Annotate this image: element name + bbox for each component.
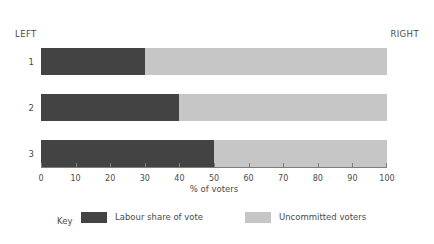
x-axis-tick-label: 50	[209, 174, 219, 184]
x-axis-tick-label: 90	[347, 174, 357, 184]
stacked-bar-chart: LEFT RIGHT 123 0102030405060708090100 % …	[0, 0, 434, 244]
x-axis-tick-label: 70	[278, 174, 288, 184]
x-axis-tick-label: 10	[71, 174, 81, 184]
x-axis-tick	[386, 163, 387, 168]
bar-segment-primary	[41, 140, 214, 167]
x-axis-tick	[145, 163, 146, 168]
legend-title: Key	[57, 216, 72, 227]
legend-label: Uncommitted voters	[279, 212, 366, 223]
bar-row: 2	[41, 94, 387, 121]
bar-row-label: 3	[29, 149, 34, 159]
pole-label-left: LEFT	[15, 29, 37, 40]
chart-legend: Key Labour share of voteUncommitted vote…	[0, 212, 434, 232]
bar-row-label: 2	[29, 103, 34, 113]
x-axis-tick	[179, 163, 180, 168]
x-axis-tick-label: 20	[105, 174, 115, 184]
pole-label-right: RIGHT	[390, 29, 419, 40]
x-axis-tick-label: 100	[379, 174, 394, 184]
x-axis-tick-label: 40	[174, 174, 184, 184]
x-axis-tick-label: 0	[38, 174, 43, 184]
x-axis-tick	[214, 163, 215, 168]
legend-swatch	[81, 212, 107, 223]
bar-segment-secondary	[145, 48, 387, 75]
bar-segment-secondary	[214, 140, 387, 167]
bar-track	[41, 48, 387, 75]
bar-row: 1	[41, 48, 387, 75]
bar-track	[41, 94, 387, 121]
x-axis-tick	[41, 163, 42, 168]
bar-segment-secondary	[179, 94, 387, 121]
x-axis-tick	[352, 163, 353, 168]
bar-row-label: 1	[29, 57, 34, 67]
x-axis-tick	[318, 163, 319, 168]
plot-area: 123	[41, 48, 387, 167]
x-axis-tick-label: 80	[313, 174, 323, 184]
x-axis-tick-label: 30	[140, 174, 150, 184]
x-axis-tick	[283, 163, 284, 168]
x-axis-title: % of voters	[41, 184, 387, 195]
legend-label: Labour share of vote	[115, 212, 203, 223]
x-axis-tick	[110, 163, 111, 168]
x-axis-tick-label: 60	[244, 174, 254, 184]
bar-segment-primary	[41, 48, 145, 75]
x-axis-tick	[76, 163, 77, 168]
legend-entry[interactable]: Uncommitted voters	[245, 212, 366, 223]
legend-entry[interactable]: Labour share of vote	[81, 212, 203, 223]
x-axis-tick	[249, 163, 250, 168]
legend-swatch	[245, 212, 271, 223]
bar-segment-primary	[41, 94, 179, 121]
x-axis: 0102030405060708090100	[41, 167, 387, 168]
